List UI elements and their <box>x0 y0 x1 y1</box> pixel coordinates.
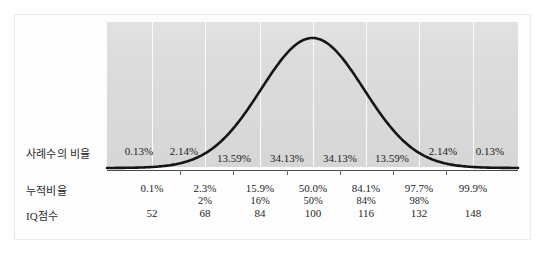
iq-score-value: 116 <box>358 207 374 219</box>
cumulative-rounded-value: 2% <box>198 195 212 206</box>
iq-score-value: 132 <box>411 207 428 219</box>
gridline-148 <box>473 22 474 167</box>
row-label-iq: IQ점수 <box>26 207 58 223</box>
iq-distribution-figure: 사례수의 비율 누적비율 IQ점수 0.13%2.14%13.59%34.13%… <box>0 0 545 254</box>
gridline-84 <box>260 22 261 167</box>
axis-tick-5 <box>446 170 447 175</box>
row-label-cumulative: 누적비율 <box>26 182 67 198</box>
cumulative-value: 0.1% <box>141 182 164 194</box>
proportion-value: 2.14% <box>170 145 198 157</box>
cumulative-value: 50.0% <box>299 182 327 194</box>
cumulative-rounded-value: 50% <box>303 195 322 206</box>
iq-score-value: 100 <box>305 207 322 219</box>
iq-score-value: 148 <box>465 207 482 219</box>
row-label-proportion: 사례수의 비율 <box>26 145 90 161</box>
axis-tick-4 <box>393 170 394 175</box>
proportion-value: 13.59% <box>217 152 251 164</box>
axis-tick-2 <box>287 170 288 175</box>
proportion-value: 2.14% <box>429 145 457 157</box>
cumulative-value: 15.9% <box>246 182 274 194</box>
axis-tick-3 <box>340 170 341 175</box>
proportion-value: 13.59% <box>375 152 409 164</box>
cumulative-value: 84.1% <box>352 182 380 194</box>
gridline-116 <box>366 22 367 167</box>
proportion-value: 0.13% <box>125 145 153 157</box>
axis-tick-0 <box>180 170 181 175</box>
cumulative-rounded-value: 84% <box>356 195 375 206</box>
proportion-value: 0.13% <box>476 145 504 157</box>
gridline-132 <box>419 22 420 167</box>
iq-score-value: 68 <box>200 207 211 219</box>
proportion-value: 34.13% <box>270 152 304 164</box>
cumulative-value: 99.9% <box>459 182 487 194</box>
gridline-100 <box>313 22 314 167</box>
cumulative-rounded-value: 98% <box>409 195 428 206</box>
cumulative-rounded-value: 16% <box>250 195 269 206</box>
axis-tick-1 <box>233 170 234 175</box>
cumulative-value: 2.3% <box>194 182 217 194</box>
proportion-value: 34.13% <box>323 152 357 164</box>
x-axis-line <box>107 170 518 171</box>
gridline-68 <box>205 22 206 167</box>
iq-score-value: 52 <box>147 207 158 219</box>
cumulative-value: 97.7% <box>405 182 433 194</box>
iq-score-value: 84 <box>255 207 266 219</box>
